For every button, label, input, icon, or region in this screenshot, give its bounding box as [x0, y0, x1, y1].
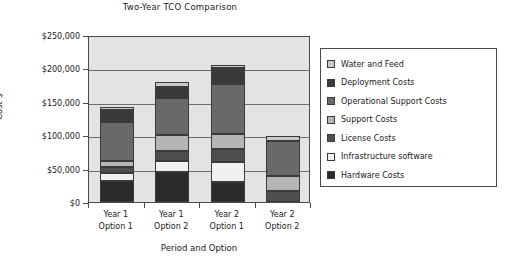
bar-segment — [266, 176, 300, 191]
bar-segment — [100, 161, 134, 168]
y-axis-tick-label: $200,000 — [24, 65, 80, 74]
bar-segment — [155, 161, 189, 172]
legend-swatch-icon — [327, 79, 335, 87]
bar-segment — [155, 151, 189, 160]
legend-item-label: Infrastructure software — [341, 152, 433, 161]
legend-item[interactable]: Water and Feed — [327, 55, 496, 74]
legend-item[interactable]: Hardware Costs — [327, 166, 496, 185]
bar-segment — [266, 141, 300, 176]
bar-segment — [211, 162, 245, 182]
bar-segment — [211, 84, 245, 133]
bar-segment — [211, 134, 245, 149]
bar-segment — [100, 107, 134, 110]
x-axis-tick-mark — [88, 203, 89, 208]
legend-item-label: Hardware Costs — [341, 171, 404, 180]
chart-title: Two-Year TCO Comparison — [0, 2, 360, 12]
bar-segment — [100, 173, 134, 181]
x-axis-tick-mark — [144, 203, 145, 208]
x-axis-tick-mark — [255, 203, 256, 208]
y-axis-tick-label: $150,000 — [24, 98, 80, 107]
y-axis-tick-label: $250,000 — [24, 32, 80, 41]
y-axis-title: Cost $ — [0, 93, 4, 120]
x-axis-tick-label-line: Option 2 — [246, 221, 318, 233]
bar-segment — [155, 135, 189, 152]
y-axis-tick-label: $0 — [24, 199, 80, 208]
bar-segment — [266, 136, 300, 141]
legend-swatch-icon — [327, 153, 335, 161]
bar-segment — [266, 191, 300, 202]
bar-segment — [211, 65, 245, 68]
bar-segment — [155, 172, 189, 202]
legend-item-label: Deployment Costs — [341, 78, 414, 87]
x-axis-title: Period and Option — [88, 243, 310, 253]
bar-segment — [155, 98, 189, 135]
legend-item-label: License Costs — [341, 134, 396, 143]
y-axis-tick-label: $50,000 — [24, 165, 80, 174]
chart-legend: Water and FeedDeployment CostsOperationa… — [320, 48, 497, 187]
legend-item-label: Operational Support Costs — [341, 97, 447, 106]
stacked-bar — [211, 35, 245, 202]
bar-segment — [211, 68, 245, 84]
legend-swatch-icon — [327, 171, 335, 179]
legend-swatch-icon — [327, 116, 335, 124]
tco-stacked-bar-chart: Two-Year TCO Comparison Cost $ $0$50,000… — [0, 0, 505, 264]
legend-item[interactable]: Deployment Costs — [327, 74, 496, 93]
bar-segment — [155, 82, 189, 87]
x-axis-tick-label: Year 2Option 2 — [246, 209, 318, 232]
legend-item-label: Support Costs — [341, 115, 397, 124]
stacked-bar — [100, 35, 134, 202]
stacked-bar — [266, 35, 300, 202]
x-axis-tick-mark — [310, 203, 311, 208]
legend-item[interactable]: Operational Support Costs — [327, 92, 496, 111]
bar-segment — [100, 110, 134, 122]
legend-item[interactable]: Infrastructure software — [327, 148, 496, 167]
bar-segment — [100, 122, 134, 161]
y-axis-tick-label: $100,000 — [24, 132, 80, 141]
bar-segment — [155, 87, 189, 98]
legend-swatch-icon — [327, 97, 335, 105]
bar-segment — [100, 167, 134, 172]
bar-segment — [211, 182, 245, 202]
x-axis-tick-label-line: Year 2 — [246, 209, 318, 221]
bar-segment — [211, 149, 245, 162]
legend-swatch-icon — [327, 60, 335, 68]
legend-swatch-icon — [327, 134, 335, 142]
x-axis-tick-mark — [199, 203, 200, 208]
legend-item[interactable]: License Costs — [327, 129, 496, 148]
plot-area — [88, 36, 310, 203]
legend-item[interactable]: Support Costs — [327, 111, 496, 130]
bar-segment — [100, 181, 134, 202]
legend-item-label: Water and Feed — [341, 60, 404, 69]
stacked-bar — [155, 35, 189, 202]
